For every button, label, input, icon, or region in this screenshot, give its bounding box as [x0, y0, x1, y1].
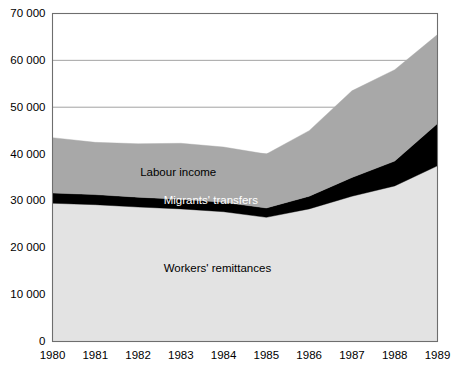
series-label-2: Workers' remittances — [164, 262, 272, 274]
series-label-0: Labour income — [140, 166, 216, 178]
x-tick-label-1985: 1985 — [254, 349, 280, 361]
x-tick-label-1989: 1989 — [425, 349, 451, 361]
stacked-area-chart: 010 00020 00030 00040 00050 00060 00070 … — [0, 0, 453, 376]
y-tick-label-0: 0 — [39, 335, 45, 347]
x-tick-label-1980: 1980 — [40, 349, 66, 361]
y-tick-label-70000: 70 000 — [10, 7, 45, 19]
y-tick-label-40000: 40 000 — [10, 148, 45, 160]
series-label-1: Migrants' transfers — [164, 194, 258, 206]
y-tick-label-60000: 60 000 — [10, 54, 45, 66]
y-tick-label-10000: 10 000 — [10, 288, 45, 300]
x-tick-label-1988: 1988 — [382, 349, 408, 361]
x-tick-label-1984: 1984 — [211, 349, 237, 361]
y-tick-label-50000: 50 000 — [10, 101, 45, 113]
y-tick-label-20000: 20 000 — [10, 241, 45, 253]
x-tick-label-1983: 1983 — [168, 349, 194, 361]
x-tick-label-1982: 1982 — [125, 349, 151, 361]
chart-canvas: 010 00020 00030 00040 00050 00060 00070 … — [0, 0, 453, 376]
y-tick-label-30000: 30 000 — [10, 194, 45, 206]
x-tick-label-1986: 1986 — [296, 349, 322, 361]
x-tick-label-1987: 1987 — [339, 349, 365, 361]
x-tick-label-1981: 1981 — [82, 349, 108, 361]
